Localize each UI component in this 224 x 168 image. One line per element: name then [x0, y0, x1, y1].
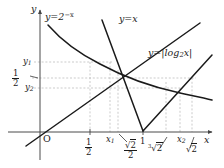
- y2-subscript: 2: [30, 85, 34, 92]
- x-tick-label-x1: x1: [106, 135, 115, 144]
- curve-label-log: y=|log2x|: [148, 48, 192, 59]
- x-tick-label-half: 1 2: [85, 138, 92, 156]
- guide-lines: [32, 62, 196, 132]
- curve-label-exponential: y=2−x: [45, 12, 74, 22]
- fraction-sqrt2-over-2: √2 2: [124, 141, 137, 159]
- curve-label-identity: y=x: [119, 14, 138, 24]
- curve-identity: [26, 23, 200, 146]
- radical-sqrt2: √2: [186, 145, 197, 154]
- fraction-one-half-y: 1 2: [12, 69, 19, 87]
- x-tick-label-cbrt2: 3√2: [148, 144, 163, 153]
- y-tick-label-y1: y1: [23, 57, 32, 66]
- figure-canvas: y x O y=2−x y=x y=|log2x| y1 1 2 y2 1 2: [0, 0, 224, 168]
- radical-cbrt2: √2: [151, 144, 162, 153]
- x-tick-label-sqrt2: √2: [186, 145, 197, 154]
- x-tick-label-one: 1: [140, 137, 145, 146]
- y1-subscript: 1: [28, 59, 32, 66]
- x1-subscript: 1: [111, 137, 115, 144]
- y-axis-label: y: [31, 4, 36, 14]
- origin-label: O: [43, 134, 51, 144]
- x-tick-label-x2: x2: [177, 135, 186, 144]
- y-tick-label-half: 1 2: [12, 69, 19, 87]
- exponent-minus-x: −x: [64, 11, 73, 19]
- curve-log-left-branch: [102, 20, 143, 131]
- radical-sqrt2-numerator: √2: [125, 141, 136, 150]
- curve-log-right-branch: [143, 55, 212, 131]
- fraction-one-half-x: 1 2: [85, 138, 92, 156]
- curve-exponential: [48, 25, 212, 100]
- x-tick-label-sqrt2-over-2: √2 2: [124, 141, 137, 159]
- y-tick-label-y2: y2: [25, 83, 34, 92]
- x-axis-label: x: [204, 135, 209, 145]
